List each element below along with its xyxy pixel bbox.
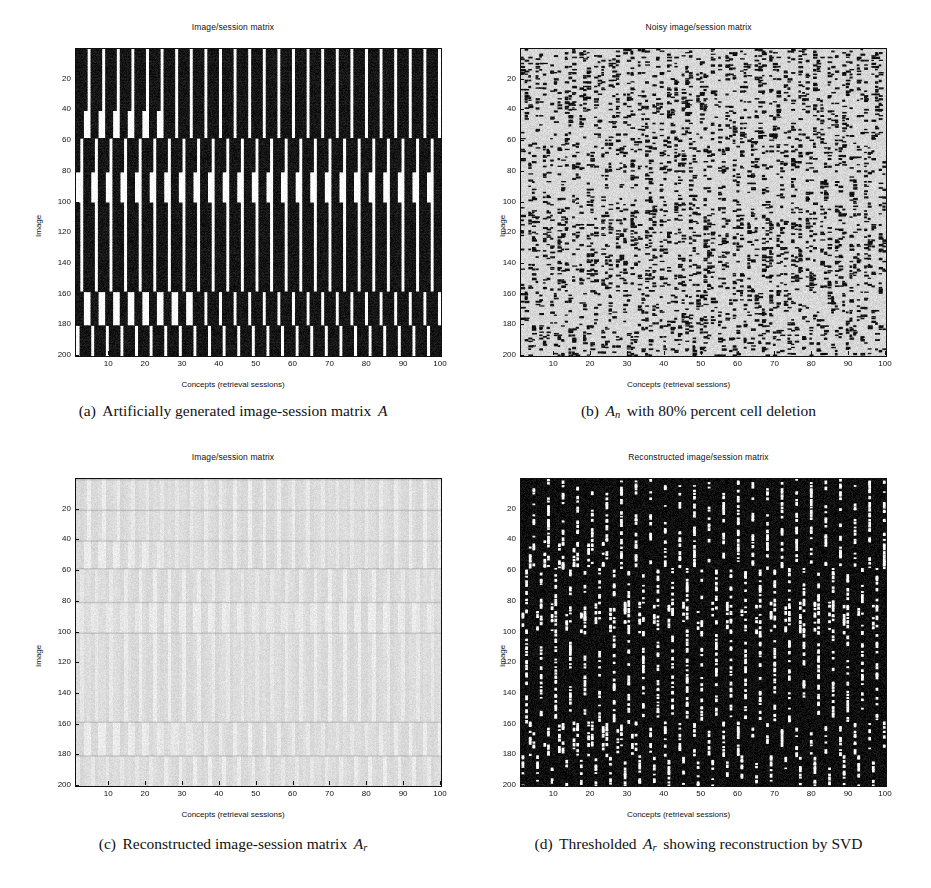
- panel-a: Image/session matrix Image 2040608010012…: [0, 22, 466, 422]
- y-tickmark: [520, 79, 524, 80]
- panel-c-xlabel: Concepts (retrieval sessions): [0, 810, 466, 819]
- y-tick-label: 200: [488, 350, 516, 359]
- panel-b-caption: (b)Anwith 80% percent cell deletion: [466, 402, 931, 420]
- y-tickmark: [75, 171, 79, 172]
- panel-d-plot-area: [520, 478, 887, 787]
- x-tick-label: 80: [797, 359, 825, 368]
- x-tickmark: [885, 351, 886, 355]
- x-tick-label: 50: [687, 359, 715, 368]
- x-tickmark: [738, 351, 739, 355]
- x-tickmark: [701, 781, 702, 785]
- x-tickmark: [182, 781, 183, 785]
- panel-b-title: Noisy image/session matrix: [466, 22, 931, 32]
- x-tickmark: [627, 351, 628, 355]
- x-tick-label: 50: [242, 359, 270, 368]
- panel-c-caption-symbol: A: [354, 835, 363, 852]
- x-tick-label: 70: [760, 359, 788, 368]
- x-tickmark: [329, 351, 330, 355]
- y-tickmark: [520, 324, 524, 325]
- y-tickmark: [520, 202, 524, 203]
- y-tickmark: [520, 232, 524, 233]
- x-tickmark: [256, 351, 257, 355]
- y-tick-label: 120: [43, 657, 71, 666]
- x-tick-label: 50: [242, 789, 270, 798]
- y-tick-label: 200: [43, 780, 71, 789]
- y-tickmark: [75, 202, 79, 203]
- y-tick-label: 120: [488, 227, 516, 236]
- x-tick-label: 10: [539, 789, 567, 798]
- y-tick-label: 200: [43, 350, 71, 359]
- y-tickmark: [75, 570, 79, 571]
- x-tick-label: 60: [279, 789, 307, 798]
- y-tick-label: 20: [43, 74, 71, 83]
- x-tickmark: [553, 781, 554, 785]
- x-tick-label: 20: [576, 359, 604, 368]
- x-tickmark: [701, 351, 702, 355]
- y-tick-label: 160: [488, 719, 516, 728]
- panel-c-plot-area: [75, 478, 442, 787]
- y-tick-label: 120: [43, 227, 71, 236]
- x-tick-label: 60: [724, 789, 752, 798]
- y-tickmark: [75, 662, 79, 663]
- panel-b-xlabel: Concepts (retrieval sessions): [446, 380, 911, 389]
- x-tickmark: [256, 781, 257, 785]
- y-tickmark: [520, 662, 524, 663]
- y-tick-label: 40: [488, 534, 516, 543]
- y-tick-label: 100: [488, 627, 516, 636]
- y-tick-label: 20: [43, 504, 71, 513]
- x-tickmark: [366, 781, 367, 785]
- y-tick-label: 100: [488, 197, 516, 206]
- y-tickmark: [520, 294, 524, 295]
- x-tick-label: 80: [797, 789, 825, 798]
- x-tick-label: 30: [168, 789, 196, 798]
- y-tickmark: [520, 632, 524, 633]
- panel-c-matrix: [76, 479, 441, 786]
- x-tickmark: [403, 351, 404, 355]
- y-tick-label: 160: [43, 289, 71, 298]
- panel-d-caption: (d)ThresholdedArshowing reconstruction b…: [466, 835, 931, 853]
- y-tickmark: [520, 171, 524, 172]
- y-tick-label: 40: [488, 104, 516, 113]
- panel-c-title: Image/session matrix: [0, 452, 466, 462]
- panel-c-ylabel: Image: [34, 645, 43, 667]
- y-tick-label: 20: [488, 74, 516, 83]
- x-tickmark: [774, 781, 775, 785]
- x-tickmark: [293, 781, 294, 785]
- x-tick-label: 60: [279, 359, 307, 368]
- x-tick-label: 50: [687, 789, 715, 798]
- y-tick-label: 60: [488, 565, 516, 574]
- x-tick-label: 10: [94, 789, 122, 798]
- y-tickmark: [75, 263, 79, 264]
- x-tick-label: 40: [205, 359, 233, 368]
- x-tickmark: [329, 781, 330, 785]
- x-tick-label: 100: [871, 789, 899, 798]
- x-tickmark: [219, 781, 220, 785]
- x-tickmark: [590, 781, 591, 785]
- x-tick-label: 60: [724, 359, 752, 368]
- y-tickmark: [520, 539, 524, 540]
- y-tickmark: [75, 232, 79, 233]
- panel-b: Noisy image/session matrix Image 2040608…: [466, 22, 931, 422]
- x-tickmark: [811, 351, 812, 355]
- x-tickmark: [145, 781, 146, 785]
- panel-d-xlabel: Concepts (retrieval sessions): [446, 810, 911, 819]
- y-tick-label: 80: [488, 166, 516, 175]
- panel-c: Image/session matrix Image 2040608010012…: [0, 452, 466, 872]
- x-tickmark: [145, 351, 146, 355]
- x-tickmark: [811, 781, 812, 785]
- x-tickmark: [664, 781, 665, 785]
- x-tick-label: 20: [576, 789, 604, 798]
- x-tickmark: [403, 781, 404, 785]
- y-tick-label: 180: [488, 749, 516, 758]
- panel-d-caption-prefix: (d): [535, 835, 553, 852]
- y-tickmark: [75, 140, 79, 141]
- y-tick-label: 100: [43, 627, 71, 636]
- panel-d-caption-subscript: r: [653, 842, 657, 853]
- y-tickmark: [520, 263, 524, 264]
- y-tick-label: 140: [43, 688, 71, 697]
- y-tick-label: 60: [43, 565, 71, 574]
- y-tick-label: 80: [43, 166, 71, 175]
- y-tick-label: 180: [43, 319, 71, 328]
- x-tick-label: 100: [426, 359, 454, 368]
- y-tickmark: [75, 109, 79, 110]
